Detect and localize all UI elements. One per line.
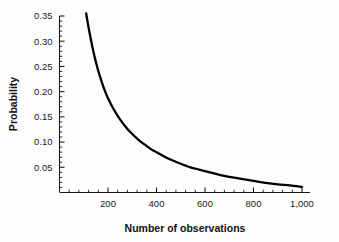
y-axis-title: Probability — [7, 77, 19, 131]
chart-figure: 0.050.100.150.200.250.300.35 20040060080… — [0, 0, 339, 242]
x-tick-label: 1,000 — [290, 198, 314, 209]
y-tick-label: 0.05 — [34, 162, 53, 173]
x-tick-label: 400 — [149, 198, 165, 209]
x-axis-title: Number of observations — [125, 222, 246, 234]
x-tick-label: 800 — [246, 198, 262, 209]
y-tick-label: 0.15 — [34, 111, 53, 122]
y-tick-label: 0.30 — [34, 36, 53, 47]
x-tick-label: 200 — [100, 198, 116, 209]
y-tick-label: 0.35 — [34, 10, 53, 21]
y-tick-label: 0.25 — [34, 61, 53, 72]
probability-decay-chart: 0.050.100.150.200.250.300.35 20040060080… — [0, 0, 339, 242]
y-tick-label: 0.20 — [34, 86, 53, 97]
x-tick-label: 600 — [197, 198, 213, 209]
y-tick-label: 0.10 — [34, 136, 53, 147]
